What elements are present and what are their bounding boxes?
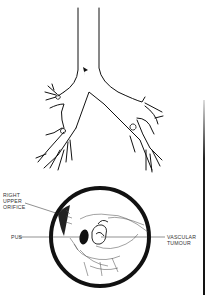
- mucosa-fold-1: [80, 214, 148, 232]
- left-lower-branch-d: [66, 142, 68, 162]
- left-lower-outer: [46, 128, 62, 135]
- trachea-right-wall: [99, 8, 145, 102]
- mucosa-fold-9: [112, 258, 118, 272]
- mucosa-fold-7: [84, 262, 88, 276]
- wall-hatch-3: [66, 222, 72, 224]
- mucosa-fold-6: [90, 266, 118, 270]
- tumour-lobe: [98, 220, 108, 224]
- right-upper-branch-3: [155, 116, 163, 118]
- tumour-vessel: [96, 232, 104, 236]
- right-lower-branch-d: [130, 136, 135, 152]
- label-vascular-tumour: VASCULAR TUMOUR: [167, 234, 196, 246]
- right-lower-branch-b: [150, 154, 152, 172]
- diagram-canvas: [0, 0, 207, 295]
- right-lower-branch-a: [152, 150, 160, 166]
- left-upper-branch-4: [52, 84, 54, 90]
- left-lower-trunk: [38, 132, 64, 162]
- mucosa-fold-5: [96, 234, 138, 249]
- right-nodule: [130, 124, 136, 130]
- tumour-outline: [92, 225, 107, 244]
- bronchial-tree: [36, 8, 163, 172]
- left-lower-branch-b: [50, 150, 60, 168]
- left-lower-branch-f: [36, 154, 46, 158]
- carina: [76, 92, 152, 170]
- left-bronchus-lower: [50, 104, 64, 128]
- leader-right-upper-orifice: [25, 203, 62, 215]
- vascular-tumour: [92, 220, 108, 244]
- page-edge-line: [203, 100, 205, 295]
- left-upper-branch-2: [45, 92, 56, 95]
- left-upper-branch-3: [46, 97, 56, 100]
- left-lower-branch-e: [70, 140, 72, 160]
- bronchoscopic-view: [19, 188, 165, 286]
- carina-arrow-icon: [83, 67, 88, 76]
- label-right-upper-orifice: RIGHT UPPER ORIFICE: [3, 192, 25, 210]
- label-pus: PUS: [11, 234, 22, 240]
- trachea-left-wall: [64, 8, 78, 92]
